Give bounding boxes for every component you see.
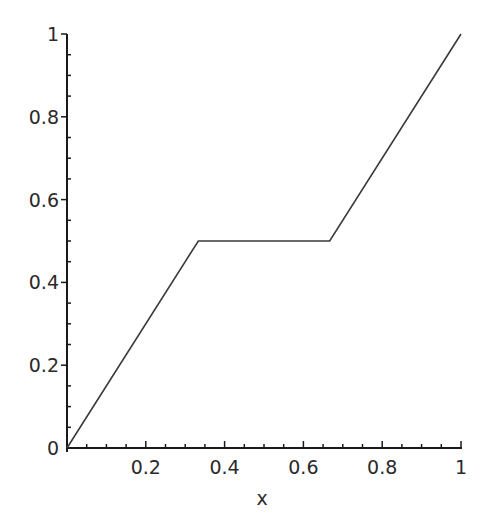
plot-area: 0.20.40.60.8100.20.40.60.81: [29, 23, 467, 478]
y-tick-label: 0: [47, 437, 59, 459]
x-axis-label: x: [256, 487, 267, 509]
y-tick-label: 0.2: [29, 354, 59, 376]
x-tick-label: 1: [455, 456, 467, 478]
y-tick-label: 1: [47, 23, 59, 45]
x-tick-label: 0.6: [288, 456, 318, 478]
y-tick-label: 0.4: [29, 271, 59, 293]
chart: 0.20.40.60.8100.20.40.60.81 x: [0, 0, 491, 524]
y-tick-label: 0.6: [29, 189, 59, 211]
x-tick-label: 0.2: [131, 456, 161, 478]
x-tick-label: 0.4: [209, 456, 239, 478]
y-tick-label: 0.8: [29, 106, 59, 128]
data-line: [67, 34, 461, 448]
x-tick-label: 0.8: [367, 456, 397, 478]
